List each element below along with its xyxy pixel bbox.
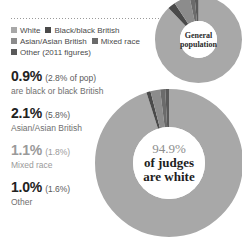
legend-row: Asian/Asian British Mixed race <box>11 36 163 46</box>
legend-row: White Black/black British <box>11 25 163 35</box>
legend: White Black/black British Asian/Asian Br… <box>11 25 163 58</box>
legend-item-mixed-race: Mixed race <box>92 37 140 46</box>
stat-value: 1.1% <box>11 142 42 158</box>
stat-population-comparison: (1.6%) <box>45 184 70 194</box>
legend-swatch-other <box>11 49 17 55</box>
stat-population-comparison: (1.8%) <box>45 147 70 157</box>
stat-heading: 0.9% (2.8% of pop) <box>11 68 123 84</box>
legend-row: Other (2011 figures) <box>11 47 163 57</box>
legend-item-black-british: Black/black British <box>45 26 119 35</box>
donut-small-label-line2: population <box>180 40 217 49</box>
donut-large-center-label: 94.9% of judges are white <box>133 127 205 199</box>
donut-chart-judges: 94.9% of judges are white <box>95 89 242 237</box>
dotted-divider <box>11 18 163 19</box>
donut-large-percent: 94.9% <box>152 142 186 156</box>
stat-value: 2.1% <box>11 105 42 121</box>
legend-swatch-black-british <box>45 27 51 33</box>
stat-value: 0.9% <box>11 68 42 84</box>
donut-chart-general-population: General population <box>155 0 242 83</box>
donut-small-center-label: General population <box>180 21 217 58</box>
legend-swatch-mixed-race <box>92 38 98 44</box>
stat-value: 1.0% <box>11 179 42 195</box>
legend-item-white: White <box>11 26 40 35</box>
legend-swatch-white <box>11 27 17 33</box>
legend-label-other: Other (2011 figures) <box>20 48 91 57</box>
legend-label-white: White <box>20 26 40 35</box>
legend-swatch-asian-british <box>11 38 17 44</box>
stat-population-comparison: (2.8% of pop) <box>45 73 96 83</box>
legend-item-other: Other (2011 figures) <box>11 48 91 57</box>
legend-label-mixed-race: Mixed race <box>101 37 140 46</box>
stat-population-comparison: (5.8%) <box>45 110 70 120</box>
legend-item-asian-british: Asian/Asian British <box>11 37 87 46</box>
donut-large-line1: of judges <box>144 156 194 170</box>
legend-label-black-british: Black/black British <box>54 26 119 35</box>
donut-large-line2: are white <box>143 170 194 184</box>
donut-small-label-line1: General <box>185 31 213 40</box>
legend-label-asian-british: Asian/Asian British <box>20 37 87 46</box>
